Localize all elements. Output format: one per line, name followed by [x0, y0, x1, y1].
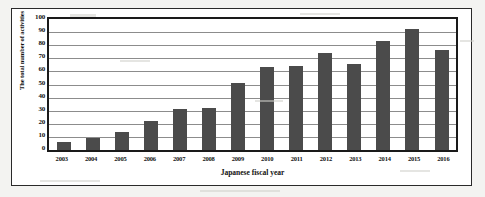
bar-chart-figure: The total number of activities 100908070…: [0, 0, 485, 197]
y-axis-tick-label: 90: [3, 27, 45, 34]
bar: [144, 121, 158, 150]
x-axis-tick-label: 2015: [399, 155, 428, 167]
x-axis-tick-label: 2006: [135, 155, 164, 167]
x-axis-tick-label: 2003: [47, 155, 76, 167]
bar-slot: [253, 19, 282, 150]
y-axis-tick-label: 70: [3, 53, 45, 60]
bar-slot: [78, 19, 107, 150]
bar: [435, 50, 449, 150]
x-axis-tick-label: 2011: [282, 155, 311, 167]
x-axis-tick-label: 2012: [311, 155, 340, 167]
scan-artifact: [255, 100, 283, 102]
x-axis-tick-label: 2008: [194, 155, 223, 167]
bar-slot: [107, 19, 136, 150]
y-axis-tick-label: 40: [3, 93, 45, 100]
bar-series: [49, 19, 456, 150]
y-axis-tick-label: 20: [3, 119, 45, 126]
bar-slot: [49, 19, 78, 150]
bar: [405, 29, 419, 150]
x-axis-tick-label: 2004: [76, 155, 105, 167]
x-axis-tick-label: 2009: [223, 155, 252, 167]
bar: [318, 53, 332, 150]
bar: [57, 142, 71, 150]
x-axis-title: Japanese fiscal year: [47, 168, 458, 177]
scan-artifact: [300, 13, 340, 15]
bar: [260, 67, 274, 150]
bar-slot: [165, 19, 194, 150]
y-axis-tick-label: 30: [3, 106, 45, 113]
bar-slot: [398, 19, 427, 150]
y-axis-tick-label: 60: [3, 66, 45, 73]
bar: [376, 41, 390, 150]
bar: [115, 132, 129, 150]
bar-slot: [194, 19, 223, 150]
x-axis-tick-label: 2005: [106, 155, 135, 167]
bar: [289, 66, 303, 150]
scan-artifact: [200, 190, 280, 192]
scan-artifact: [120, 60, 150, 62]
bar-slot: [282, 19, 311, 150]
scan-artifact: [460, 40, 474, 42]
bar-slot: [223, 19, 252, 150]
x-axis-tick-label: 2013: [341, 155, 370, 167]
x-axis-tick-label: 2016: [429, 155, 458, 167]
y-axis-tick-labels: 1009080706050403020100: [0, 17, 45, 152]
scan-artifact: [70, 14, 96, 17]
bar-slot: [340, 19, 369, 150]
scan-artifact: [40, 180, 100, 182]
x-axis-tick-labels: 2003200420052006200720082009201020112012…: [47, 155, 458, 167]
bar-slot: [311, 19, 340, 150]
bar: [347, 64, 361, 150]
bar: [231, 83, 245, 150]
bar-slot: [427, 19, 456, 150]
plot-area: [47, 17, 458, 152]
scan-artifact: [400, 170, 430, 172]
y-axis-tick-label: 50: [3, 80, 45, 87]
bar-slot: [369, 19, 398, 150]
bar-slot: [136, 19, 165, 150]
bar: [173, 109, 187, 150]
bar: [86, 138, 100, 150]
y-axis-tick-label: 0: [3, 145, 45, 152]
y-axis-tick-label: 80: [3, 40, 45, 47]
y-axis-tick-label: 10: [3, 132, 45, 139]
x-axis-tick-label: 2010: [253, 155, 282, 167]
bar: [202, 108, 216, 150]
x-axis-tick-label: 2007: [164, 155, 193, 167]
x-axis-tick-label: 2014: [370, 155, 399, 167]
y-axis-tick-label: 100: [3, 14, 45, 21]
